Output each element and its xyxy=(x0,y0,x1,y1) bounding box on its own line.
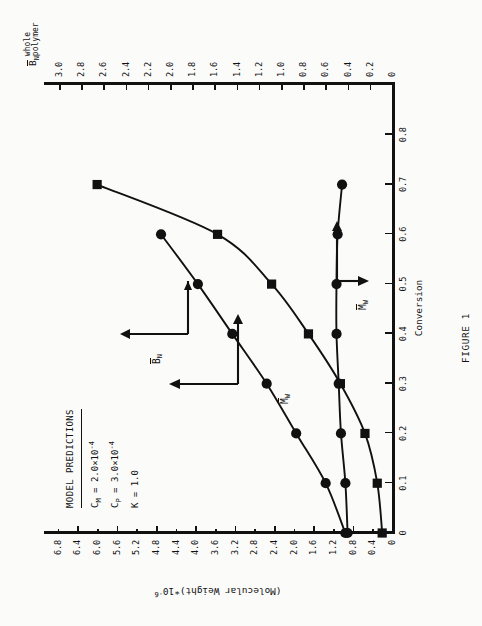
series-label-mn-symbol: M xyxy=(356,304,367,310)
model-parameter-row: CP = 3.0×10-4 xyxy=(106,409,126,508)
data-curves xyxy=(0,0,482,626)
model-parameter-symbol: C xyxy=(90,503,100,508)
data-point-square xyxy=(360,429,369,438)
model-predictions-header: MODEL PREDICTIONS xyxy=(62,409,82,508)
model-parameter-value: 1.0 xyxy=(130,470,140,486)
data-point-circle xyxy=(193,279,203,289)
data-point-circle xyxy=(337,179,347,189)
data-point-circle xyxy=(156,229,166,239)
data-point-circle xyxy=(321,478,331,488)
plot-area: 00.10.20.30.40.50.60.70.8 00.40.81.21.62… xyxy=(0,0,482,626)
model-parameter-subscript: P xyxy=(115,498,123,502)
rotated-figure-canvas: 00.10.20.30.40.50.60.70.8 00.40.81.21.62… xyxy=(0,0,482,626)
data-point-circle xyxy=(343,528,353,538)
series-label-mw-symbol: M xyxy=(278,398,289,404)
model-parameter-symbol: K xyxy=(130,503,140,508)
figure-caption: FIGURE 1 xyxy=(461,313,472,363)
model-parameter-exponent: -4 xyxy=(88,441,96,449)
arrow-mw-up-head xyxy=(169,379,180,389)
series-label-mn: MW xyxy=(356,300,370,310)
series-label-mn-subscript: W xyxy=(362,300,370,304)
arrow-bn-head xyxy=(184,281,192,290)
arrow-mn-down-head xyxy=(358,276,369,286)
series-label-bn-subscript: N xyxy=(156,354,164,358)
model-parameter-equals: = xyxy=(90,488,100,493)
model-parameter-value: 2.0×10 xyxy=(90,450,100,483)
data-point-square xyxy=(373,479,382,488)
data-point-square xyxy=(267,280,276,289)
arrow-mw-right-head xyxy=(233,314,243,324)
data-point-square xyxy=(93,180,102,189)
model-parameter-row: K = 1.0 xyxy=(126,409,146,508)
data-point-circle xyxy=(340,478,350,488)
series-label-bn: BN xyxy=(150,354,164,364)
data-point-circle xyxy=(331,329,341,339)
data-point-circle xyxy=(334,379,344,389)
data-point-circle xyxy=(336,428,346,438)
model-parameter-value: 3.0×10 xyxy=(110,450,120,483)
series-label-bn-symbol: B xyxy=(150,358,161,364)
series-label-mw-subscript: W xyxy=(284,394,292,398)
arrow-bn-down-head xyxy=(120,329,130,339)
arrow-mn-right-head xyxy=(332,221,342,231)
model-parameter-subscript: M xyxy=(94,498,102,502)
model-parameter-exponent: -4 xyxy=(108,441,116,449)
data-point-square xyxy=(213,230,222,239)
data-point-square xyxy=(378,528,387,537)
series-label-mw: MW xyxy=(278,394,292,404)
model-parameter-row: CM = 2.0×10-4 xyxy=(86,409,106,508)
model-parameter-symbol: C xyxy=(110,503,120,508)
model-predictions-annotation: MODEL PREDICTIONS CM = 2.0×10-4 CP = 3.0… xyxy=(62,409,147,508)
data-point-circle xyxy=(291,428,301,438)
model-parameter-equals: = xyxy=(130,492,140,497)
data-point-circle xyxy=(227,329,237,339)
figure-page: 00.10.20.30.40.50.60.70.8 00.40.81.21.62… xyxy=(0,0,482,626)
data-point-circle xyxy=(262,379,272,389)
model-parameter-equals: = xyxy=(110,488,120,493)
data-point-square xyxy=(304,329,313,338)
